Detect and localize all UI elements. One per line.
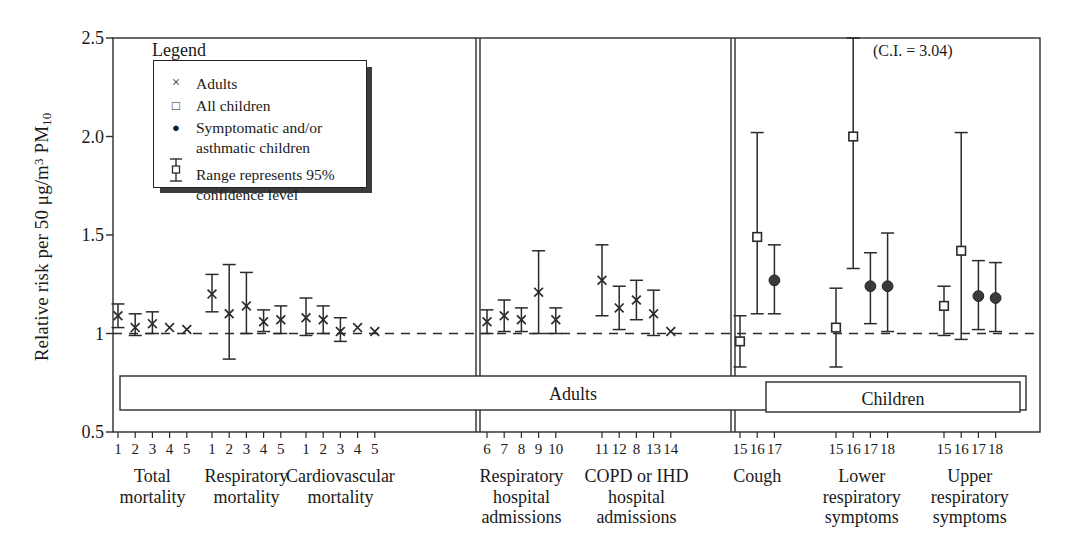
filled-circle-marker	[865, 281, 876, 292]
x-study-number: 18	[876, 442, 900, 457]
legend-item-label: confidence level	[196, 186, 298, 203]
open-square-marker	[957, 246, 966, 255]
y-axis-title-pollutant-subscript: 10	[39, 113, 54, 126]
open-square-marker	[849, 132, 858, 141]
open-square-marker	[940, 302, 949, 311]
y-tick-label: 2.5	[58, 29, 104, 47]
x-study-number: 17	[762, 442, 786, 457]
x-group-label-line: Cardiovascular	[260, 466, 420, 487]
legend-item-label: All children	[196, 97, 270, 114]
filled-circle-marker	[973, 291, 984, 302]
x-study-number: 5	[269, 442, 293, 457]
data-group	[300, 298, 380, 341]
open-square-marker	[753, 233, 762, 242]
data-group	[596, 245, 676, 336]
y-axis-title-unit-exponent: 3	[31, 158, 46, 165]
x-group-label: Cardiovascularmortality	[260, 466, 420, 507]
x-group-label-line: admissions	[556, 507, 716, 528]
data-group	[938, 133, 1003, 340]
open-square-marker	[736, 337, 745, 346]
data-group	[112, 304, 192, 336]
x-group-label-line: mortality	[260, 487, 420, 508]
x-study-number: 18	[984, 442, 1008, 457]
x-group-label-line: hospital	[556, 487, 716, 508]
y-axis-title-pollutant: PM	[31, 126, 52, 159]
figure-root: Relative risk per 50 μg/m3 PM10 0.511.52…	[0, 0, 1074, 557]
filled-circle-marker: ●	[167, 120, 185, 136]
legend-item-label: Adults	[196, 75, 237, 92]
x-group-label-line: respiratory	[890, 487, 1050, 508]
legend-item-label: Range represents 95%	[196, 166, 335, 183]
legend-item-label: asthmatic children	[196, 139, 310, 156]
open-square-marker	[832, 323, 841, 332]
data-group	[830, 38, 895, 367]
data-group	[206, 265, 288, 360]
x-study-number: 10	[544, 442, 568, 457]
legend-title: Legend	[152, 40, 206, 61]
data-group	[734, 133, 781, 367]
x-group-label: Upperrespiratorysymptoms	[890, 466, 1050, 528]
filled-circle-marker	[882, 281, 893, 292]
open-square-marker: □	[167, 98, 185, 114]
y-axis-title: Relative risk per 50 μg/m3 PM10	[31, 27, 55, 447]
ci-annotation: (C.I. = 3.04)	[873, 42, 953, 60]
x-study-number: 14	[659, 442, 683, 457]
y-tick-label: 0.5	[58, 423, 104, 441]
y-tick-label: 1	[58, 325, 104, 343]
filled-circle-marker	[990, 293, 1001, 304]
section-label-children: Children	[766, 390, 1020, 408]
y-tick-label: 1.5	[58, 226, 104, 244]
y-axis-title-prefix: Relative risk per 50	[31, 205, 52, 361]
filled-circle-marker	[769, 275, 780, 286]
x-study-number: 5	[363, 442, 387, 457]
x-group-label-line: Upper	[890, 466, 1050, 487]
error-bar-marker	[166, 156, 186, 184]
cross-marker: ×	[167, 74, 185, 91]
x-study-number: 5	[175, 442, 199, 457]
data-group	[481, 251, 563, 334]
x-group-label-line: symptoms	[890, 507, 1050, 528]
y-tick-label: 2.0	[58, 128, 104, 146]
legend-item-label: Symptomatic and/or	[196, 119, 322, 136]
y-axis-title-unit: μg/m	[31, 165, 52, 205]
